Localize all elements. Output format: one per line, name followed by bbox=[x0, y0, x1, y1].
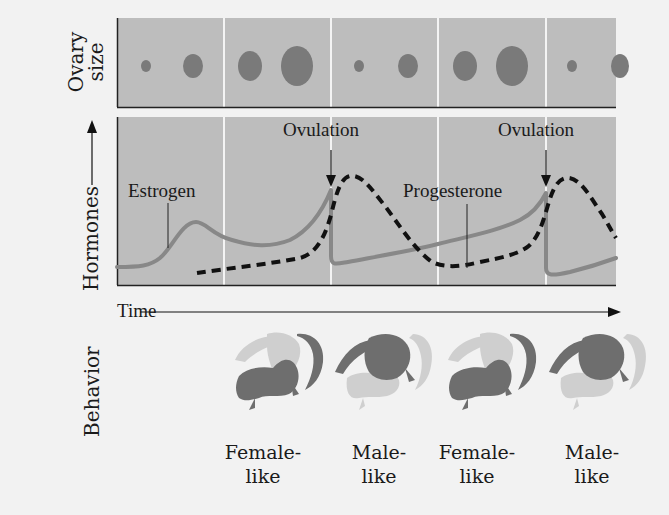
ovary-dot bbox=[567, 60, 577, 72]
ovary-size-label-line2: size bbox=[86, 27, 106, 97]
behavior-lizards bbox=[235, 332, 646, 410]
estrogen-label: Estrogen bbox=[128, 180, 196, 202]
ovulation-label-2: Ovulation bbox=[498, 119, 574, 141]
behavior-phase-line2: like bbox=[547, 464, 637, 488]
time-axis-label: Time bbox=[117, 300, 156, 322]
ovary-dot bbox=[281, 46, 313, 86]
behavior-phase-label: Female- like bbox=[432, 440, 522, 488]
ovary-dot bbox=[183, 54, 203, 78]
behavior-phase-label: Male- like bbox=[334, 440, 424, 488]
behavior-phase-line1: Female- bbox=[218, 440, 308, 464]
behavior-phase-label: Male- like bbox=[547, 440, 637, 488]
lizard-pair-female-like bbox=[448, 332, 536, 410]
lizard-pair-male-like bbox=[335, 334, 432, 410]
time-axis-arrow bbox=[140, 307, 621, 317]
behavior-phase-line2: like bbox=[218, 464, 308, 488]
ovary-size-panel bbox=[117, 18, 629, 108]
behavior-phase-label: Female- like bbox=[218, 440, 308, 488]
lizard-pair-female-like bbox=[235, 332, 323, 410]
hormones-label: Hormones bbox=[81, 201, 101, 291]
behavior-phase-line1: Male- bbox=[334, 440, 424, 464]
ovary-dot bbox=[496, 46, 528, 86]
ovary-dot bbox=[238, 51, 262, 81]
hormones-axis-arrow bbox=[87, 120, 97, 185]
behavior-label: Behavior bbox=[82, 347, 102, 437]
behavior-phase-line1: Female- bbox=[432, 440, 522, 464]
lizard-pair-male-like bbox=[549, 334, 646, 410]
ovary-dot bbox=[611, 54, 629, 78]
ovary-dot bbox=[453, 51, 477, 81]
behavior-phase-line2: like bbox=[334, 464, 424, 488]
ovulation-label-1: Ovulation bbox=[283, 119, 359, 141]
ovary-dot bbox=[141, 60, 151, 72]
ovary-size-label-line1: Ovary bbox=[66, 27, 86, 97]
ovary-dot bbox=[354, 60, 364, 72]
behavior-phase-line1: Male- bbox=[547, 440, 637, 464]
progesterone-label: Progesterone bbox=[403, 180, 502, 202]
ovary-dot bbox=[398, 54, 418, 78]
behavior-phase-line2: like bbox=[432, 464, 522, 488]
